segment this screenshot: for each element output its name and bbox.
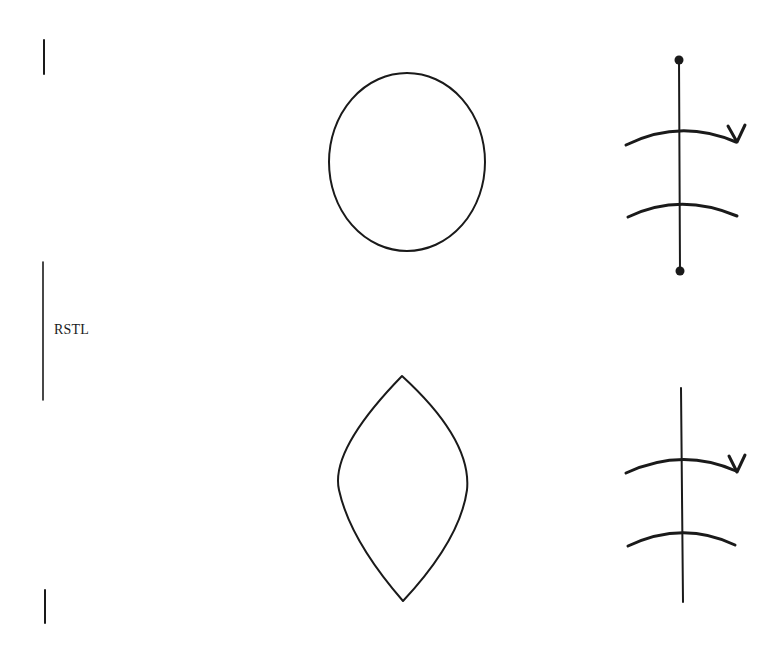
- suture-dot-bottom: [676, 267, 685, 276]
- diagram-svg: [0, 0, 773, 646]
- rstl-label: RSTL: [54, 322, 89, 338]
- tension-arc-upper-top: [626, 131, 736, 145]
- diagram-canvas: RSTL: [0, 0, 773, 646]
- lens-excision: [338, 376, 467, 601]
- tension-arc-lower-top: [628, 204, 737, 217]
- closure-axis-top: [679, 60, 680, 272]
- circle-defect: [329, 73, 485, 251]
- suture-dot-top: [675, 56, 684, 65]
- closure-axis-bottom: [681, 388, 683, 602]
